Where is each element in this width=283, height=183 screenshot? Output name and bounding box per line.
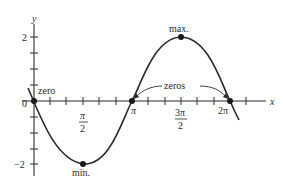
x-axis-label: x	[269, 96, 275, 107]
zero-point-0	[31, 98, 37, 104]
pi-half-numerator: π	[80, 110, 86, 121]
two-pi-label: 2π	[218, 105, 228, 116]
three-pi-half-numerator: 3π	[175, 107, 185, 118]
y-tick-neg2: −2	[14, 159, 25, 170]
origin-label: 0	[22, 98, 27, 109]
min-annotation: min.	[72, 167, 90, 178]
pi-label: π	[131, 105, 137, 116]
sine-graph: y x 2 −2 0 π 2 π 3π 2 2π zero zeros max.…	[0, 0, 283, 183]
y-axis-label: y	[31, 13, 37, 24]
max-annotation: max.	[169, 23, 189, 34]
y-tick-2: 2	[22, 32, 27, 43]
zero-annotation: zero	[38, 85, 55, 96]
zeros-annotation: zeros	[164, 80, 185, 91]
three-pi-half-denominator: 2	[178, 120, 183, 131]
max-point	[178, 34, 184, 40]
pi-half-denominator: 2	[80, 123, 85, 134]
